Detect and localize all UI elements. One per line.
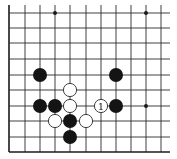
star-point xyxy=(53,11,57,15)
star-point xyxy=(144,11,148,15)
diagram-caption xyxy=(4,153,174,159)
black-stone xyxy=(63,114,77,128)
white-stone xyxy=(48,114,61,127)
white-stone xyxy=(63,99,76,112)
go-board-diagram: 1 xyxy=(0,0,177,159)
black-stone xyxy=(109,99,123,113)
black-stone xyxy=(33,99,47,113)
black-stone xyxy=(109,68,123,82)
black-stone xyxy=(48,99,62,113)
move-number-label: 1 xyxy=(98,101,104,112)
white-stone: 1 xyxy=(94,99,107,112)
board-grid xyxy=(9,5,170,152)
white-stone xyxy=(79,114,92,127)
black-stone xyxy=(33,68,47,82)
star-point xyxy=(144,104,148,108)
white-stone xyxy=(63,83,76,96)
black-stone xyxy=(63,130,77,144)
